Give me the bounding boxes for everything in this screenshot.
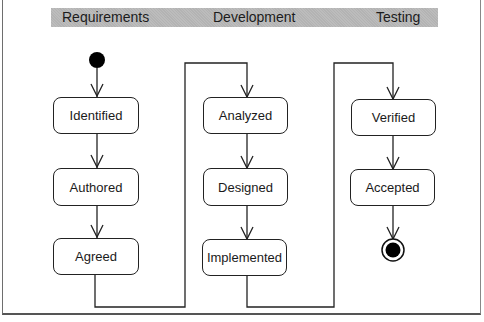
state-authored: Authored bbox=[53, 168, 139, 206]
state-implemented: Implemented bbox=[202, 239, 287, 276]
state-identified: Identified bbox=[53, 97, 139, 134]
start-node-icon bbox=[89, 52, 105, 68]
state-analyzed: Analyzed bbox=[203, 97, 288, 134]
state-designed: Designed bbox=[203, 168, 288, 206]
state-agreed: Agreed bbox=[53, 238, 139, 275]
state-verified: Verified bbox=[351, 99, 436, 136]
end-node-icon bbox=[382, 239, 404, 261]
state-accepted: Accepted bbox=[350, 169, 435, 206]
